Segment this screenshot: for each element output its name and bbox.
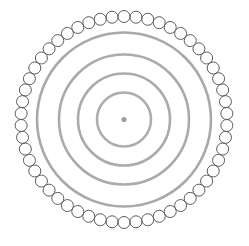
diagram-canvas <box>0 0 249 246</box>
center-dot <box>121 117 126 122</box>
concentric-circles-figure <box>0 0 249 246</box>
center-dot <box>121 117 126 122</box>
